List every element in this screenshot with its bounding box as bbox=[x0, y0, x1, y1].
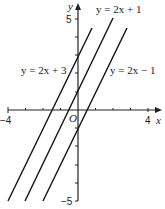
label-line-y-2x-plus-3: y = 2x + 3 bbox=[21, 64, 67, 76]
linear-graphs-plot: y = 2x + 3 y = 2x + 1 y = 2x − 1 y x O −… bbox=[0, 0, 165, 209]
x-tick-label-min: −4 bbox=[0, 115, 12, 126]
x-axis-label: x bbox=[155, 114, 161, 126]
line-y-2x-minus-1 bbox=[43, 28, 127, 201]
y-tick-label-max: 5 bbox=[66, 14, 72, 25]
label-line-y-2x-plus-1: y = 2x + 1 bbox=[96, 3, 141, 15]
line-y-2x-plus-3 bbox=[8, 28, 92, 201]
label-line-y-2x-minus-1: y = 2x − 1 bbox=[110, 64, 155, 76]
x-tick-label-max: 4 bbox=[145, 115, 151, 126]
x-axis-arrow-icon bbox=[155, 107, 162, 113]
y-axis-label: y bbox=[67, 0, 73, 12]
y-axis-arrow-icon bbox=[75, 3, 81, 10]
origin-label: O bbox=[69, 112, 77, 124]
y-tick-label-min: −5 bbox=[61, 196, 73, 207]
